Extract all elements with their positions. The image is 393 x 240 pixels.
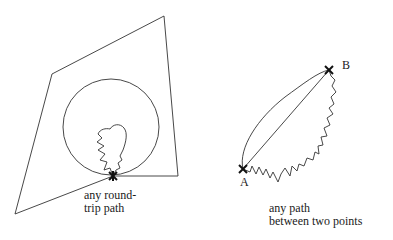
straight-path-a-to-b (243, 70, 329, 169)
point-a-label: A (240, 176, 249, 189)
star-marker-b (325, 66, 333, 74)
two-points-caption: any path between two points (269, 202, 362, 228)
round-trip-caption: any round- trip path (84, 189, 136, 215)
two-points-caption-line2: between two points (269, 215, 362, 228)
star-marker-a (239, 165, 247, 173)
round-trip-zigzag-loop (97, 125, 126, 176)
point-b-label: B (342, 59, 350, 72)
round-trip-caption-line2: trip path (84, 202, 136, 215)
round-trip-polygon-path (15, 16, 178, 214)
